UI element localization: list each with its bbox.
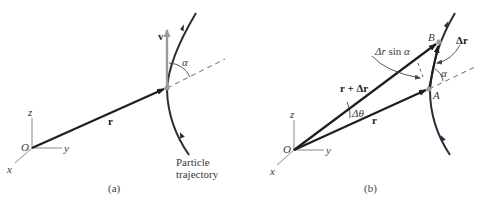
particle-point-a (164, 85, 169, 90)
origin-label-a: O (21, 141, 29, 153)
point-a (426, 86, 431, 91)
point-a-label: A (432, 89, 440, 101)
alpha-label-a: α (182, 56, 188, 68)
position-vector-r-b (294, 90, 426, 150)
dr-sin-alpha-label: Δr sin α (374, 45, 410, 57)
z-axis-label-a: z (27, 106, 33, 118)
panel-a: z y x O α r v Particle trajectory (a) (6, 13, 225, 195)
r-plus-dr-label: r + Δr (340, 82, 368, 94)
trajectory-arrow-icon (180, 23, 186, 31)
alpha-label-b: α (441, 67, 447, 79)
dr-leader-line (437, 45, 460, 63)
dr-sin-alpha-alpha: α (404, 45, 410, 57)
panel-b: z y x O α Δθ r r + Δr Δr Δr sin α (269, 13, 477, 195)
trajectory-label-line2: trajectory (176, 168, 219, 180)
caption-b: (b) (364, 182, 377, 195)
origin-label-b: O (283, 143, 291, 155)
kinematics-diagram: z y x O α r v Particle trajectory (a) (0, 0, 477, 204)
displacement-vector-dr (429, 46, 438, 89)
r-label-b: r (372, 114, 377, 126)
position-vector-r-plus-dr (294, 44, 436, 150)
x-axis-label-a: x (6, 163, 12, 175)
point-b-label: B (428, 31, 435, 43)
y-axis-label-a: y (63, 142, 69, 154)
v-label: v (158, 30, 164, 42)
position-vector-r-a (32, 89, 164, 148)
point-b (436, 39, 441, 44)
radial-extension-dashed-a (167, 59, 225, 88)
trajectory-label-line1: Particle (176, 156, 210, 168)
r-label-a: r (108, 115, 113, 127)
dr-sin-alpha-sin: sin (386, 45, 404, 57)
dr-sin-alpha-prefix: Δr (374, 45, 386, 57)
dr-label: Δr (456, 34, 468, 46)
delta-theta-label: Δθ (351, 107, 364, 119)
y-axis-label-b: y (325, 144, 331, 156)
x-axis-label-b: x (269, 165, 275, 177)
caption-a: (a) (108, 182, 121, 195)
z-axis-label-b: z (289, 108, 295, 120)
